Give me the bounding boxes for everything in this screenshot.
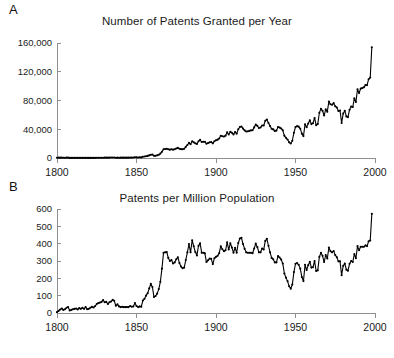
x-tick-label: 1950 xyxy=(284,321,308,333)
series-line xyxy=(57,214,372,312)
series-markers xyxy=(56,46,373,159)
patents-figure: A Number of Patents Granted per Year 040… xyxy=(0,0,394,358)
x-tick-label: 1900 xyxy=(204,166,228,178)
y-tick-label: 100 xyxy=(36,290,52,301)
x-tick-label: 1850 xyxy=(125,321,149,333)
y-tick-label: 200 xyxy=(36,273,52,284)
y-tick-label: 120,000 xyxy=(18,66,52,77)
x-tick-label: 2000 xyxy=(363,166,387,178)
panel-b: B Patents per Million Population 0100200… xyxy=(0,178,394,358)
y-tick-label: 0 xyxy=(47,307,52,318)
y-tick-label: 300 xyxy=(36,255,52,266)
y-tick-label: 0 xyxy=(47,152,52,163)
x-tick-label: 1800 xyxy=(45,166,69,178)
y-tick-label: 600 xyxy=(36,203,52,214)
y-tick-label: 80,000 xyxy=(23,95,52,106)
panel-a-plot: 040,00080,000120,000160,0001800185019001… xyxy=(0,0,394,180)
y-tick-label: 40,000 xyxy=(23,124,52,135)
panel-b-plot: 010020030040050060018001850190019502000 xyxy=(0,178,394,358)
x-tick-label: 1900 xyxy=(204,321,228,333)
series-markers xyxy=(56,213,373,313)
x-tick-label: 1850 xyxy=(125,166,149,178)
x-tick-label: 1950 xyxy=(284,166,308,178)
x-tick-label: 1800 xyxy=(45,321,69,333)
x-tick-label: 2000 xyxy=(363,321,387,333)
y-tick-label: 160,000 xyxy=(18,37,52,48)
y-tick-label: 500 xyxy=(36,221,52,232)
y-tick-label: 400 xyxy=(36,238,52,249)
panel-a: A Number of Patents Granted per Year 040… xyxy=(0,0,394,180)
